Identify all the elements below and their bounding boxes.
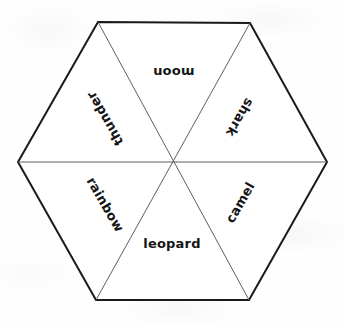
- hexagon-outline: [18, 22, 327, 300]
- wedge-label-leopard: leopard: [143, 236, 200, 251]
- hexagon-word-wheel-figure: moon shark camel leopard rainbow thunder: [0, 0, 345, 325]
- hexagon-diagram: [0, 0, 345, 325]
- wedge-label-moon: moon: [153, 65, 194, 80]
